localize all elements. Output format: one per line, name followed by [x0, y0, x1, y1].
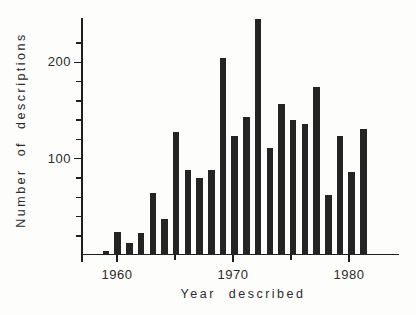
bar-1978: [325, 195, 332, 255]
x-major-tick-1960: [116, 255, 118, 262]
y-major-tick-200: [74, 62, 82, 64]
bar-1964: [161, 219, 168, 255]
x-major-tick-1970: [232, 255, 234, 262]
x-minor-tick-1975: [290, 255, 292, 260]
y-minor-tick-80: [76, 177, 82, 179]
y-minor-tick-60: [76, 197, 82, 199]
bar-1974: [278, 104, 285, 255]
x-tick-label-1960: 1960: [87, 267, 147, 282]
y-axis-title: Number of descriptions: [14, 11, 30, 249]
bar-1963: [150, 193, 157, 255]
x-major-tick-1980: [348, 255, 350, 262]
bar-1972: [255, 19, 262, 255]
plot-area: 100200 196019701980: [83, 19, 399, 255]
x-tick-label-1980: 1980: [319, 267, 379, 282]
bar-1960: [114, 232, 121, 255]
bar-1959: [103, 251, 110, 255]
y-minor-tick-160: [76, 100, 82, 102]
bar-1977: [313, 87, 320, 255]
x-axis-title: Year described: [123, 287, 363, 301]
bar-1971: [243, 117, 250, 255]
bar-chart-figure: Number of descriptions 100200 1960197019…: [0, 0, 416, 315]
x-minor-tick-1965: [174, 255, 176, 260]
bar-1966: [185, 170, 192, 255]
y-minor-tick-120: [76, 139, 82, 141]
bar-1965: [173, 132, 180, 255]
bar-1968: [208, 170, 215, 255]
bar-1981: [360, 129, 367, 255]
x-tick-label-1970: 1970: [203, 267, 263, 282]
bar-1975: [290, 120, 297, 255]
y-minor-tick-220: [76, 42, 82, 44]
y-tick-label-200: 200: [33, 54, 71, 70]
bar-1967: [196, 178, 203, 255]
y-minor-tick-140: [76, 119, 82, 121]
bar-1980: [348, 172, 355, 255]
bar-1979: [337, 136, 344, 255]
y-axis-line: [81, 18, 83, 262]
bar-1976: [302, 124, 309, 255]
bar-1962: [138, 233, 145, 255]
bar-1969: [220, 58, 227, 256]
y-minor-tick-20: [76, 235, 82, 237]
bar-1973: [267, 148, 274, 255]
y-minor-tick-180: [76, 81, 82, 83]
y-major-tick-100: [74, 158, 82, 160]
bar-1970: [231, 136, 238, 255]
y-minor-tick-40: [76, 216, 82, 218]
bar-1961: [126, 243, 133, 255]
y-tick-label-100: 100: [33, 151, 71, 167]
